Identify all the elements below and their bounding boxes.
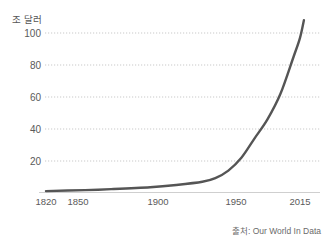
chart-container: 조 달러 100 80 60 40 20 1820 1850 1900 1950… <box>0 0 330 245</box>
x-tick-label: 1950 <box>225 196 246 207</box>
x-tick-label: 1850 <box>67 196 88 207</box>
source-attribution: 출처: Our World In Data <box>232 224 321 236</box>
x-tick-label: 2015 <box>289 196 310 207</box>
plot-area <box>0 0 330 245</box>
data-series-line <box>46 20 304 191</box>
x-tick-label: 1900 <box>147 196 168 207</box>
x-tick-label: 1820 <box>35 196 56 207</box>
